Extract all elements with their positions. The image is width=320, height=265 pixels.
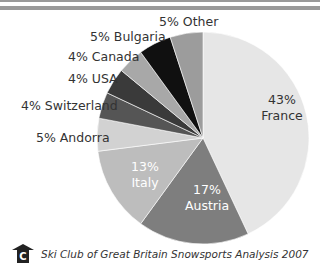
- label-italy: 13% Italy: [113, 159, 177, 191]
- label-andorra: 5% Andorra: [36, 130, 110, 145]
- label-switzerland: 4% Switzerland: [21, 98, 118, 113]
- source-text: Ski Club of Great Britain Snowsports Ana…: [41, 248, 309, 260]
- label-usa: 4% USA: [68, 71, 118, 86]
- label-austria: 17% Austria: [175, 182, 239, 214]
- source-footer: C Ski Club of Great Britain Snowsports A…: [12, 244, 309, 264]
- label-france: 43% France: [250, 92, 314, 124]
- label-other: 5% Other: [159, 14, 218, 29]
- label-bulgaria: 5% Bulgaria: [90, 29, 166, 44]
- ski-club-logo-icon: C: [12, 244, 34, 264]
- logo-letter: C: [17, 250, 29, 263]
- label-canada: 4% Canada: [68, 49, 139, 64]
